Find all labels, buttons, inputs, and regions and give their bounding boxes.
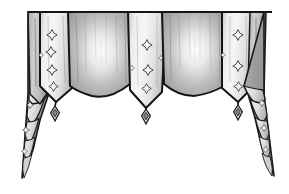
swag-dark-1 [68,12,132,97]
swag-dark-2 [162,12,226,96]
panel-light-1 [38,12,72,102]
tassel-left [51,106,60,121]
valance-illustration [0,0,289,194]
swag-dark-1-body [68,12,132,97]
swag-dark-2-body [162,12,226,96]
panel-light-2 [128,12,166,108]
panel-light-1-body [40,12,72,102]
cascade-left-fold-5 [23,154,32,178]
panel-light-2-body [128,12,166,108]
illustration-canvas [0,0,289,194]
tassel-center [142,109,151,124]
tassel-right [234,105,243,120]
